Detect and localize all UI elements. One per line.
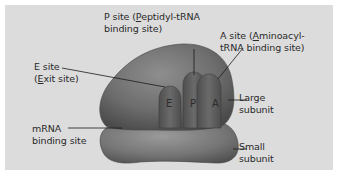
e-site-label: E site (Exit site): [34, 61, 79, 85]
e-site-letter: E: [166, 98, 172, 109]
a-site-label: A site (Aminoacyl- tRNA binding site): [220, 30, 305, 54]
small-subunit-label: Small subunit: [239, 141, 274, 165]
large-subunit-label: Large subunit: [239, 92, 274, 116]
p-site-letter: P: [190, 98, 196, 109]
p-site-label: P site (Peptidyl-tRNA binding site): [104, 11, 200, 35]
a-site-letter: A: [212, 98, 219, 109]
mrna-binding-site-label: mRNA binding site: [32, 123, 86, 147]
